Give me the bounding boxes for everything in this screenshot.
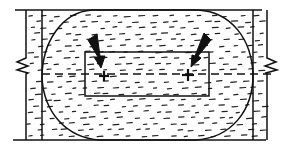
left-point-cross-icon	[99, 71, 109, 81]
right-arrow-icon	[191, 33, 211, 67]
right-outer-wall-with-break	[265, 10, 277, 140]
cross-section-diagram	[0, 0, 288, 154]
hatching-texture	[27, 15, 268, 137]
diagram-canvas	[0, 0, 288, 154]
rounded-zone-outline	[42, 10, 253, 140]
left-outer-wall-with-break	[17, 10, 28, 140]
